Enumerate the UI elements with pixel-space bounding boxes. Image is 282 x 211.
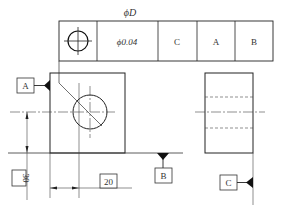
diameter-d-label: ϕD xyxy=(124,7,137,18)
dimension-20-value: 20 xyxy=(104,177,114,187)
feature-control-frame: ϕD ϕ0.04 C A B xyxy=(59,7,273,61)
datum-ref-2: A xyxy=(213,37,220,47)
datum-a-label: A xyxy=(22,81,29,91)
dimension-20: 20 xyxy=(50,174,132,190)
side-view-outline xyxy=(205,73,253,153)
datum-ref-1: C xyxy=(174,37,180,47)
dimension-30: 30 xyxy=(12,112,31,200)
datum-a-triangle xyxy=(44,80,50,91)
leader-line xyxy=(59,61,102,126)
engineering-drawing: ϕD ϕ0.04 C A B A xyxy=(0,0,282,211)
dimension-30-value: 30 xyxy=(21,174,31,184)
datum-b-label: B xyxy=(160,171,166,181)
datum-a-symbol: A xyxy=(17,78,50,93)
position-icon xyxy=(64,27,92,55)
datum-b-triangle xyxy=(157,153,169,160)
datum-ref-3: B xyxy=(251,37,257,47)
datum-c-label: C xyxy=(225,178,231,188)
datum-c-triangle xyxy=(246,177,253,188)
tolerance-value: ϕ0.04 xyxy=(117,37,138,47)
datum-b-symbol: B xyxy=(155,153,172,183)
datum-c-symbol: C xyxy=(220,175,253,190)
